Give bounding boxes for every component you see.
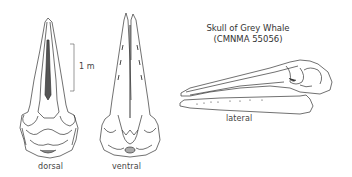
title-line-2: (CMNMA 55056) xyxy=(198,34,298,45)
lateral-view-label: lateral xyxy=(226,114,252,123)
dorsal-skull-drawing xyxy=(20,18,78,158)
ventral-view-label: ventral xyxy=(112,162,141,171)
figure-title: Skull of Grey Whale (CMNMA 55056) xyxy=(198,23,298,45)
scale-bar xyxy=(70,44,74,91)
dorsal-view-label: dorsal xyxy=(38,162,63,171)
scale-bar-label: 1 m xyxy=(79,62,95,71)
skull-illustration xyxy=(0,0,352,177)
lateral-skull-drawing xyxy=(180,60,332,114)
title-line-1: Skull of Grey Whale xyxy=(198,23,298,34)
ventral-skull-drawing xyxy=(100,13,160,157)
